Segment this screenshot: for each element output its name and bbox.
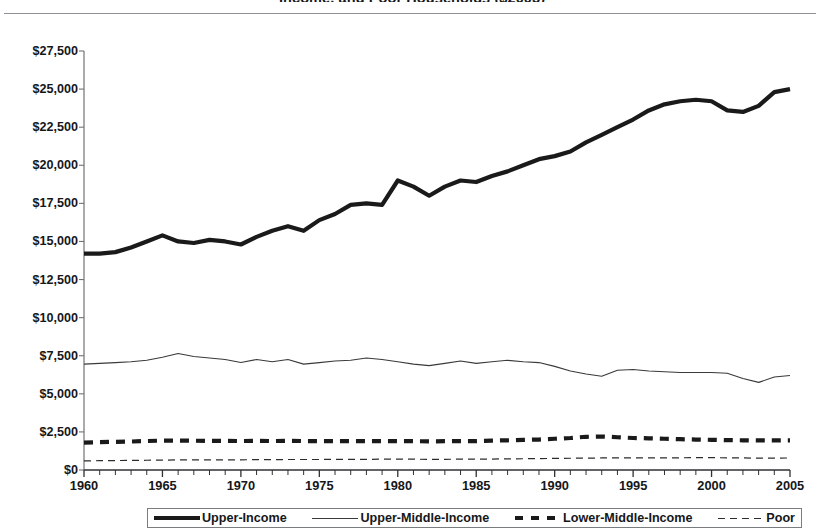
axis-lines — [84, 51, 790, 470]
legend-item-lower-middle-income[interactable]: Lower-Middle-Income — [515, 511, 692, 525]
y-axis-ticks — [79, 51, 84, 470]
chart-figure: Income, and Poor Households ($2005) $0$2… — [0, 0, 824, 532]
legend-item-label: Poor — [765, 511, 795, 525]
data-series-layer — [84, 89, 790, 461]
plot-area — [0, 0, 824, 532]
x-axis-minor-ticks — [100, 470, 775, 475]
thin-dashed-swatch — [718, 518, 762, 519]
legend-item-label: Upper-Middle-Income — [359, 511, 489, 525]
legend-item-poor[interactable]: Poor — [718, 511, 795, 525]
x-axis-major-ticks — [84, 470, 790, 477]
legend-item-upper-income[interactable]: Upper-Income — [154, 511, 287, 525]
legend-item-label: Upper-Income — [201, 511, 287, 525]
legend-item-upper-middle-income[interactable]: Upper-Middle-Income — [312, 511, 489, 525]
thin-solid-swatch — [312, 518, 358, 519]
chart-legend: Upper-IncomeUpper-Middle-IncomeLower-Mid… — [147, 508, 802, 528]
series-line-upper-middle-income — [84, 353, 790, 382]
legend-item-label: Lower-Middle-Income — [562, 511, 692, 525]
series-line-lower-middle-income — [84, 436, 790, 442]
series-line-upper-income — [84, 89, 790, 254]
series-line-poor — [84, 458, 790, 461]
thick-solid-swatch — [154, 516, 200, 520]
thick-dashed-swatch — [515, 516, 561, 520]
